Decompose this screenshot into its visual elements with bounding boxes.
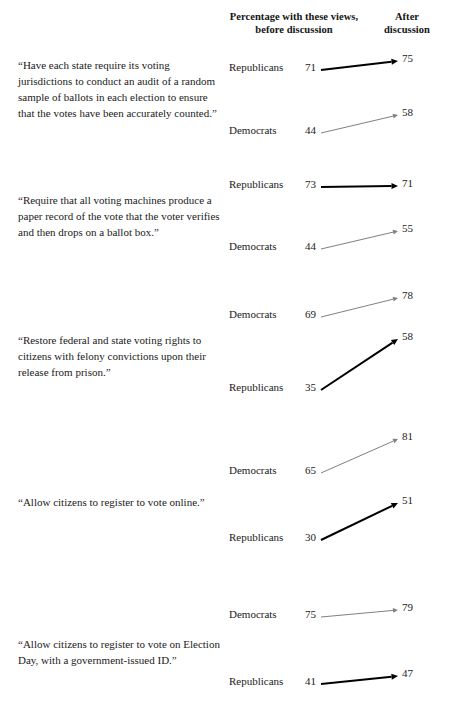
arrowhead-democrats (393, 608, 398, 613)
statement-text: “Restore federal and state voting rights… (18, 333, 224, 381)
slope-line-democrats (321, 299, 393, 317)
statement-text: “Have each state require its voting juri… (18, 58, 224, 122)
value-after: 47 (402, 667, 413, 679)
slope-line-republicans (321, 343, 393, 390)
column-header-after-line1: After (372, 10, 442, 23)
slope-line-democrats (321, 232, 393, 249)
arrowhead-republicans (391, 674, 398, 680)
slope-line-democrats (321, 441, 393, 473)
column-header-after: After discussion (372, 10, 442, 36)
arrowhead-democrats (393, 230, 398, 235)
slope-line-republicans (321, 677, 392, 684)
value-after: 58 (402, 106, 413, 118)
value-before: 73 (296, 178, 316, 190)
slope-line-republicans (321, 62, 392, 70)
slope-line-republicans (321, 186, 392, 187)
value-before: 44 (296, 124, 316, 136)
value-after: 71 (402, 177, 413, 189)
column-header-after-line2: discussion (372, 23, 442, 36)
value-after: 55 (402, 222, 413, 234)
value-after: 79 (402, 601, 413, 613)
party-label-republicans: Republicans (229, 61, 283, 73)
column-header-before: Percentage with these views, before disc… (222, 10, 366, 36)
statement-text: “Allow citizens to register to vote onli… (18, 495, 224, 511)
value-before: 35 (296, 381, 316, 393)
value-before: 65 (296, 464, 316, 476)
party-label-democrats: Democrats (229, 124, 277, 136)
slope-line-democrats (321, 610, 393, 617)
party-label-republicans: Republicans (229, 531, 283, 543)
party-label-republicans: Republicans (229, 381, 283, 393)
party-label-democrats: Democrats (229, 608, 277, 620)
column-header-before-line2: before discussion (222, 23, 366, 36)
value-before: 75 (296, 608, 316, 620)
value-before: 71 (296, 61, 316, 73)
arrowhead-democrats (393, 297, 398, 302)
value-before: 44 (296, 240, 316, 252)
arrowhead-republicans (391, 503, 398, 509)
statement-text: “Allow citizens to register to vote on E… (18, 637, 224, 669)
value-after: 78 (402, 289, 413, 301)
statement-text: “Require that all voting machines produc… (18, 193, 224, 241)
slope-line-democrats (321, 116, 393, 133)
arrowhead-republicans (391, 183, 398, 189)
party-label-democrats: Democrats (229, 464, 277, 476)
value-after: 75 (402, 52, 413, 64)
arrowhead-democrats (393, 114, 398, 119)
value-after: 58 (402, 330, 413, 342)
party-label-democrats: Democrats (229, 240, 277, 252)
arrowhead-democrats (392, 439, 398, 443)
column-header-before-line1: Percentage with these views, (222, 10, 366, 23)
arrowhead-republicans (391, 59, 398, 65)
value-before: 69 (296, 308, 316, 320)
slope-line-republicans (321, 506, 392, 540)
party-label-republicans: Republicans (229, 178, 283, 190)
party-label-republicans: Republicans (229, 675, 283, 687)
arrowhead-republicans (391, 339, 398, 345)
party-label-democrats: Democrats (229, 308, 277, 320)
value-before: 41 (296, 675, 316, 687)
value-before: 30 (296, 531, 316, 543)
value-after: 81 (402, 430, 413, 442)
slopegraph-chart: Percentage with these views, before disc… (0, 0, 449, 706)
value-after: 51 (402, 494, 413, 506)
